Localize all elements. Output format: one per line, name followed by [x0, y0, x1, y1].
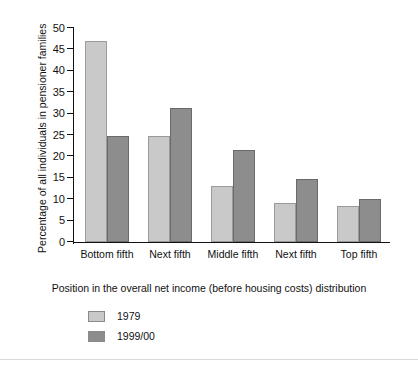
legend-item[interactable]: 1979: [88, 306, 155, 326]
legend-swatch-icon: [88, 331, 105, 342]
y-tick: 20: [73, 155, 74, 156]
y-tick-label: 35: [53, 86, 65, 97]
bar-1999-00[interactable]: [296, 179, 318, 242]
y-tick-label: 25: [53, 129, 65, 140]
y-tick: 30: [73, 113, 74, 114]
bar-group: Next fifth: [274, 28, 318, 242]
y-tick-mark: [67, 70, 73, 71]
legend-item[interactable]: 1999/00: [88, 326, 155, 346]
y-tick-mark: [67, 241, 73, 242]
y-tick-mark: [67, 177, 73, 178]
y-tick-label: 5: [59, 215, 65, 226]
y-axis-title: Percentage of all individuals in pension…: [37, 18, 48, 258]
legend-swatch-icon: [88, 311, 105, 322]
x-category-label: Top fifth: [299, 249, 418, 260]
y-tick: 40: [73, 70, 74, 71]
bar-group: Middle fifth: [211, 28, 255, 242]
bar-1979[interactable]: [85, 41, 107, 242]
y-tick-label: 30: [53, 108, 65, 119]
bar-group: Top fifth: [337, 28, 381, 242]
y-tick-label: 45: [53, 43, 65, 54]
bar-1979[interactable]: [148, 136, 170, 242]
plot-area: 05101520253035404550 Bottom fifthNext fi…: [73, 28, 390, 243]
bottom-divider: [0, 359, 418, 360]
y-tick-mark: [67, 113, 73, 114]
y-tick: 35: [73, 91, 74, 92]
legend: 19791999/00: [88, 306, 155, 346]
bar-group: Bottom fifth: [85, 28, 129, 242]
x-axis-title: Position in the overall net income (befo…: [0, 283, 418, 294]
bar-1999-00[interactable]: [233, 150, 255, 242]
y-tick: 10: [73, 198, 74, 199]
bar-group: Next fifth: [148, 28, 192, 242]
bar-1979[interactable]: [337, 206, 359, 242]
y-tick-mark: [67, 155, 73, 156]
y-tick: 25: [73, 134, 74, 135]
bar-1979[interactable]: [274, 203, 296, 242]
bar-1999-00[interactable]: [170, 108, 192, 242]
y-tick: 0: [73, 241, 74, 242]
y-tick-label: 20: [53, 150, 65, 161]
legend-label: 1979: [117, 311, 140, 322]
y-tick-label: 0: [59, 236, 65, 247]
y-tick: 5: [73, 220, 74, 221]
y-tick-label: 40: [53, 65, 65, 76]
y-tick-mark: [67, 91, 73, 92]
y-tick: 15: [73, 177, 74, 178]
y-tick-label: 15: [53, 172, 65, 183]
bar-1979[interactable]: [211, 186, 233, 242]
y-tick-mark: [67, 220, 73, 221]
y-axis-line: [73, 27, 74, 244]
y-tick-mark: [67, 198, 73, 199]
bar-1999-00[interactable]: [359, 199, 381, 242]
bar-chart: Percentage of all individuals in pension…: [0, 0, 418, 368]
legend-label: 1999/00: [117, 331, 155, 342]
y-tick-mark: [67, 27, 73, 28]
y-tick-mark: [67, 134, 73, 135]
bar-1999-00[interactable]: [107, 136, 129, 242]
y-tick: 50: [73, 27, 74, 28]
y-tick-mark: [67, 48, 73, 49]
y-tick-label: 50: [53, 22, 65, 33]
y-tick-label: 10: [53, 193, 65, 204]
y-tick: 45: [73, 48, 74, 49]
